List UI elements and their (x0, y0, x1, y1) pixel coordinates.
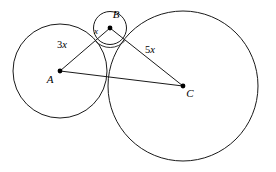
segment-label-ab-variable: x (61, 39, 67, 50)
geometry-canvas: A B C 3x 5x x (0, 0, 276, 172)
point-label-b: B (113, 8, 120, 20)
segment-label-bc: 5x (145, 44, 155, 55)
segment-label-bc-variable: x (149, 44, 155, 55)
point-label-c: C (186, 87, 194, 99)
segment-bc (110, 28, 183, 86)
point-label-a: A (46, 73, 54, 85)
vertex-dot-c (181, 84, 186, 89)
segment-ac (60, 71, 183, 86)
vertex-dot-a (58, 69, 63, 74)
angle-label-at-b: x (93, 26, 98, 36)
segment-label-ab: 3x (57, 39, 67, 50)
geometry-diagram: A B C 3x 5x x (0, 0, 276, 172)
vertex-dot-b (108, 26, 113, 31)
